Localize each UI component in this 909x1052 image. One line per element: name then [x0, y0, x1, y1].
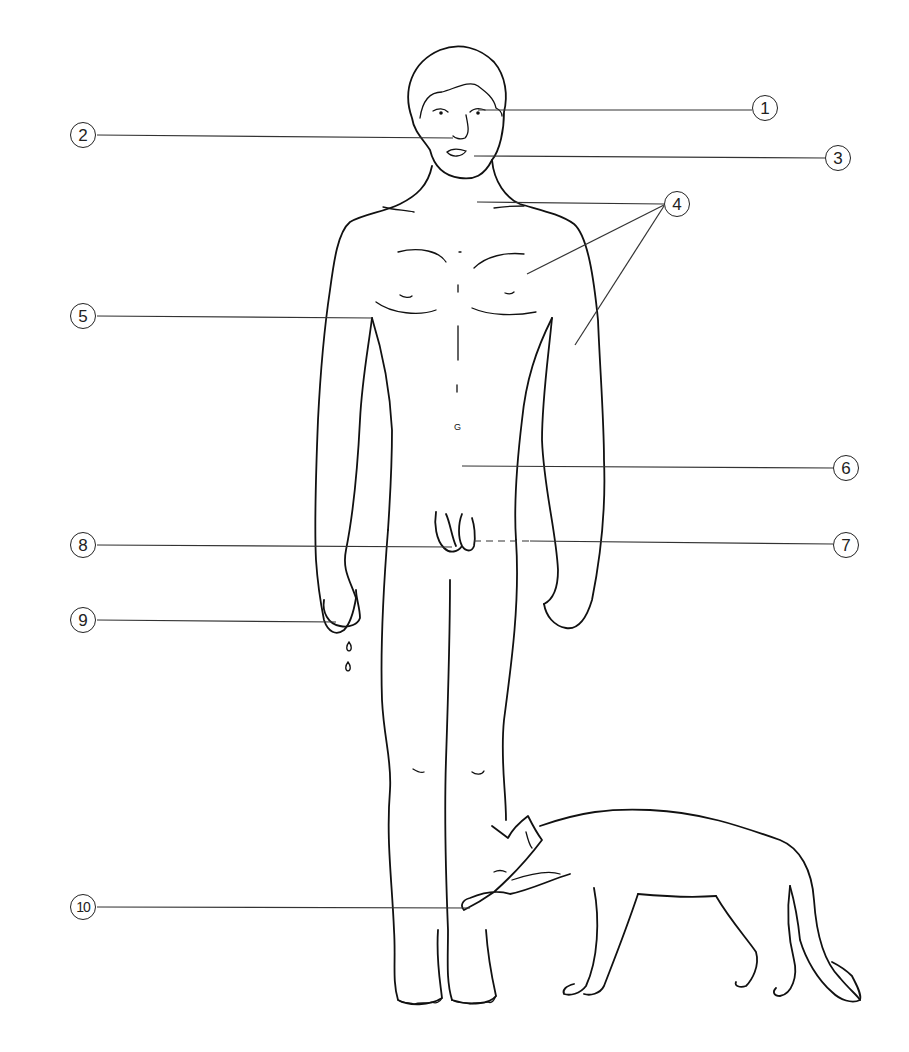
- fox-belly: [638, 894, 716, 897]
- right-inner-arm: [542, 318, 558, 604]
- head-outline: [408, 46, 506, 178]
- left-pectoral: [398, 250, 446, 262]
- genitals: [435, 512, 475, 552]
- callout-1: 1: [752, 95, 778, 121]
- right-knee: [472, 771, 484, 774]
- callout-6: 6: [833, 455, 859, 481]
- leader-9: [97, 620, 336, 622]
- callout-8: 8: [70, 532, 96, 558]
- fox-hind-leg-2: [774, 886, 795, 996]
- left-leg-inner: [445, 580, 452, 1000]
- right-torso-side: [515, 318, 552, 540]
- left-leg-outer: [381, 530, 442, 1004]
- callout-9: 9: [70, 607, 96, 633]
- nose: [453, 115, 468, 139]
- sternum-line: [457, 252, 461, 392]
- callout-4: 4: [664, 191, 690, 217]
- callout-3: 3: [825, 145, 851, 171]
- fox-ear-inner: [526, 832, 532, 848]
- callout-7: 7: [833, 532, 859, 558]
- leader-10: [97, 907, 470, 908]
- fox-head: [462, 816, 570, 910]
- right-pectoral: [474, 254, 524, 268]
- leader-4a: [477, 202, 664, 204]
- leader-3: [474, 156, 825, 158]
- leader-7: [530, 541, 833, 544]
- right-nipple: [505, 292, 514, 294]
- drip-2: [346, 662, 351, 671]
- left-pupil: [439, 111, 443, 115]
- fox-front-leg-1: [563, 888, 597, 995]
- mouth: [447, 149, 466, 156]
- fox-hind-leg-1: [716, 896, 757, 987]
- callout-5: 5: [70, 303, 96, 329]
- drip-1: [347, 642, 352, 651]
- figure-drawing: G: [0, 0, 909, 1052]
- right-leg-inner: [452, 930, 496, 1003]
- body-outline-left: [315, 166, 432, 633]
- leader-4b: [527, 205, 664, 274]
- left-torso-side: [372, 318, 392, 530]
- clavicle-right: [494, 206, 524, 208]
- body-outline-right: [492, 160, 604, 628]
- right-chest-lower: [472, 308, 536, 315]
- hairline: [420, 84, 502, 118]
- left-nipple: [400, 295, 412, 297]
- fox: [462, 810, 860, 1002]
- left-chest-lower: [376, 302, 436, 313]
- fox-eye: [494, 871, 506, 873]
- left-inner-arm: [345, 318, 372, 598]
- anatomical-diagram: G: [0, 0, 909, 1052]
- left-knee: [413, 769, 424, 772]
- callout-10: 10: [70, 894, 96, 920]
- fox-front-leg-2: [584, 894, 638, 995]
- fox-body: [540, 810, 860, 1002]
- right-leg-outer: [503, 540, 517, 820]
- leader-5: [97, 316, 372, 318]
- leader-lines: [97, 110, 833, 908]
- leader-2: [97, 135, 453, 138]
- callout-2: 2: [70, 122, 96, 148]
- human-figure: G: [315, 46, 604, 1004]
- navel: G: [454, 422, 461, 432]
- right-pupil: [476, 111, 480, 115]
- fox-cheek-fur: [512, 872, 560, 880]
- leader-8: [97, 545, 452, 547]
